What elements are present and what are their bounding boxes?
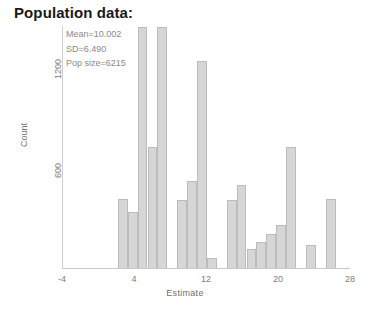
histogram-bar [128, 212, 138, 268]
annotation-sd: SD=6.490 [66, 42, 126, 57]
histogram-bar [256, 242, 266, 268]
x-axis-title: Estimate [0, 288, 370, 298]
page-title: Population data: [14, 4, 133, 21]
histogram-bar [306, 245, 316, 268]
stats-annotation: Mean=10.002 SD=6.490 Pop size=6215 [66, 27, 126, 71]
histogram-bar [286, 147, 296, 269]
x-axis-line [62, 268, 350, 269]
y-tick-label: 1200 [53, 59, 63, 99]
histogram-bar [138, 27, 148, 268]
histogram-bar [157, 27, 167, 268]
histogram-bar [276, 225, 286, 268]
histogram-bar [197, 61, 207, 268]
y-axis-title: Count [19, 123, 29, 147]
x-tick-label: 4 [119, 274, 149, 284]
histogram-bar [207, 258, 217, 268]
histogram-bar [326, 199, 336, 268]
histogram-bar [227, 200, 237, 268]
histogram-bar [148, 147, 158, 269]
x-tick-label: 20 [263, 274, 293, 284]
histogram-bar [237, 185, 247, 268]
histogram-bar [118, 199, 128, 268]
x-tick-label: -4 [47, 274, 77, 284]
histogram-bar [187, 181, 197, 268]
histogram-bar [266, 234, 276, 268]
histogram-bar [247, 249, 257, 268]
x-tick-label: 12 [191, 274, 221, 284]
histogram-bar [177, 200, 187, 268]
annotation-pop-size: Pop size=6215 [66, 56, 126, 71]
y-tick-label: 600 [53, 163, 63, 203]
annotation-mean: Mean=10.002 [66, 27, 126, 42]
x-tick-label: 28 [335, 274, 365, 284]
